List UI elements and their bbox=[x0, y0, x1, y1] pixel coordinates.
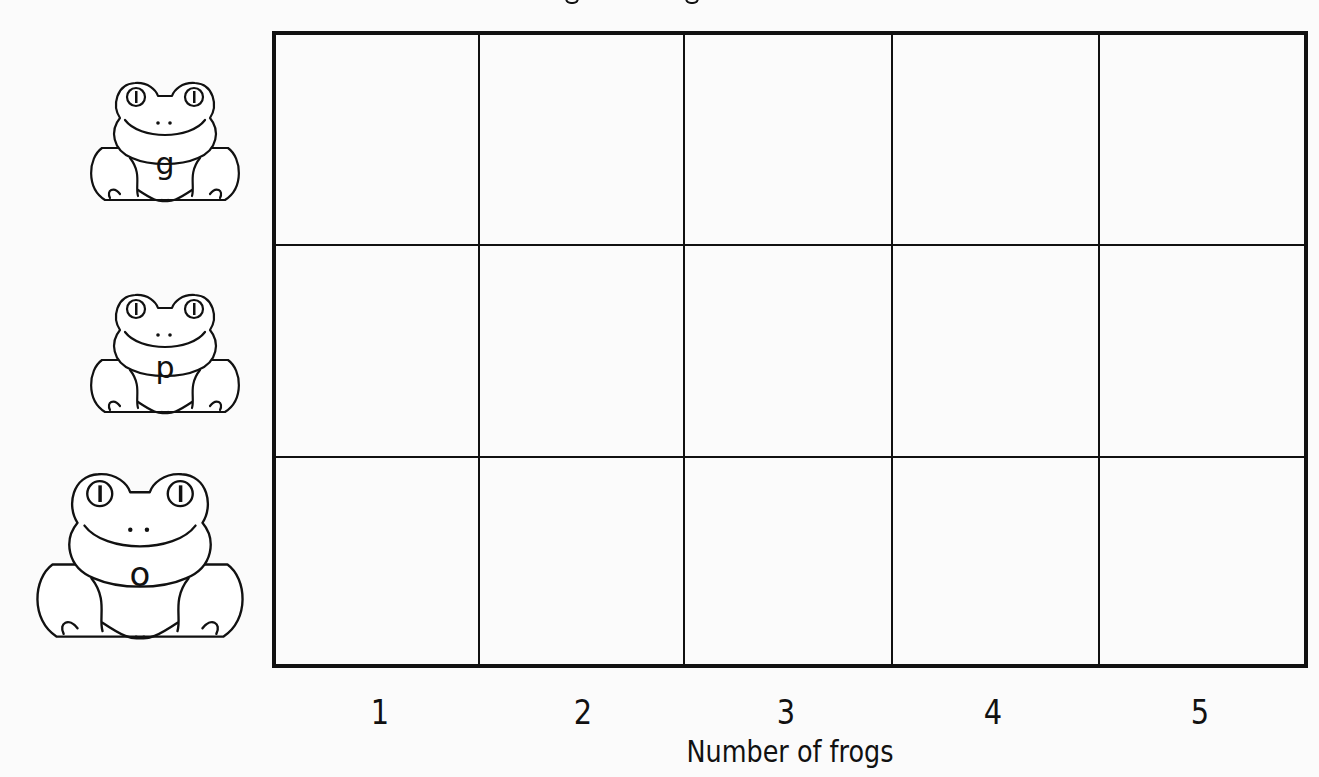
grid-col-divider-3 bbox=[891, 35, 893, 664]
x-tick-1: 1 bbox=[355, 692, 406, 732]
row-letter: g bbox=[80, 146, 250, 181]
x-tick-2: 2 bbox=[558, 692, 609, 732]
grid-row-divider-2 bbox=[276, 456, 1304, 458]
grid-row-divider-1 bbox=[276, 244, 1304, 246]
row-letter: o bbox=[22, 554, 258, 594]
cropped-title bbox=[560, 0, 760, 6]
row-label-p: p bbox=[80, 290, 250, 425]
x-axis-label: Number of frogs bbox=[595, 734, 986, 769]
pictograph-grid bbox=[272, 31, 1308, 668]
x-tick-4: 4 bbox=[968, 692, 1019, 732]
row-label-g: g bbox=[80, 78, 250, 213]
grid-col-divider-4 bbox=[1098, 35, 1100, 664]
grid-col-divider-1 bbox=[478, 35, 480, 664]
row-label-o: o bbox=[22, 466, 258, 656]
x-tick-3: 3 bbox=[761, 692, 812, 732]
grid-col-divider-2 bbox=[683, 35, 685, 664]
x-tick-5: 5 bbox=[1175, 692, 1226, 732]
row-letter: p bbox=[80, 350, 250, 385]
